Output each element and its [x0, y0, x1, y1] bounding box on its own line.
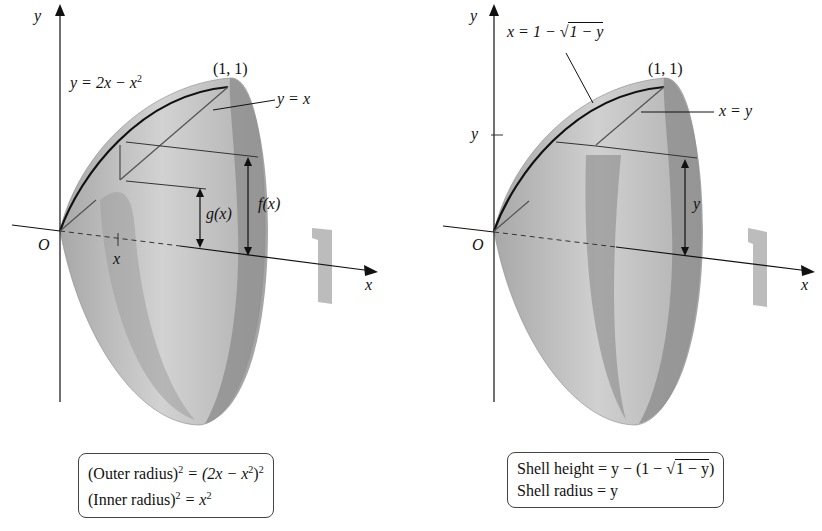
shell-formula-box: Shell height = y − (1 − √1 − y) Shell ra…	[507, 452, 724, 508]
formula-text: = (2x − x	[183, 465, 248, 482]
left-solid-drawing	[0, 0, 411, 531]
formula-text: (Outer radius)	[88, 465, 178, 482]
x-axis-label: x	[801, 276, 808, 294]
formula-text: = x	[181, 492, 207, 509]
point-label: (1, 1)	[213, 60, 248, 78]
x-axis-front	[443, 226, 494, 232]
origin-label: O	[38, 236, 50, 254]
curve-label: x = 1 − √1 − y	[507, 23, 603, 41]
shell-radius-label: y	[693, 195, 700, 213]
x-axis-front	[12, 225, 60, 231]
x-axis-label: x	[365, 276, 372, 294]
outer-radius-label: f(x)	[258, 195, 280, 213]
curve-label-text: x = 1 −	[507, 23, 560, 40]
shell-method-figure: y O y x (1, 1) x = 1 − √1 − y x = y y Sh…	[411, 0, 822, 531]
curve-label-leader	[566, 53, 593, 103]
y-axis-label: y	[34, 7, 41, 25]
formula-text: )	[709, 460, 714, 477]
curve-label-exponent: 2	[137, 73, 142, 84]
y-axis-arrowhead-icon	[489, 4, 499, 16]
radicand: 1 − y	[675, 459, 709, 477]
formula-exponent: 2	[259, 464, 264, 475]
x-axis-arrowhead-icon	[364, 265, 378, 276]
washer-method-figure: y O x x (1, 1) y = 2x − x2 y = x f(x) g(…	[0, 0, 411, 531]
radical-icon: √	[666, 460, 675, 477]
line-label: y = x	[277, 90, 310, 108]
x-axis-arrowhead-icon	[801, 265, 815, 276]
formula-exponent: 2	[206, 490, 211, 501]
shell-radius-formula: Shell radius = y	[517, 480, 714, 502]
origin-label: O	[472, 236, 484, 254]
y-axis-arrowhead-icon	[55, 4, 65, 16]
y-axis-label: y	[470, 7, 477, 25]
inner-radius-formula: (Inner radius)2 = x2	[88, 485, 264, 511]
washer-formula-box: (Outer radius)2 = (2x − x2)2 (Inner radi…	[78, 453, 274, 518]
rotation-arrow-icon	[748, 228, 767, 307]
outer-radius-formula: (Outer radius)2 = (2x − x2)2	[88, 459, 264, 485]
formula-text: (Inner radius)	[88, 492, 176, 509]
formula-text: Shell height = y − (1 −	[517, 460, 666, 477]
line-label: x = y	[719, 102, 752, 120]
curve-label: y = 2x − x2	[70, 73, 142, 92]
shell-height-formula: Shell height = y − (1 − √1 − y)	[517, 458, 714, 480]
x-tick-label: x	[113, 250, 120, 268]
curve-label-text: y = 2x − x	[70, 74, 137, 91]
point-label: (1, 1)	[648, 60, 683, 78]
radicand: 1 − y	[568, 22, 603, 40]
y-tick-label: y	[471, 125, 478, 143]
inner-radius-label: g(x)	[206, 205, 232, 223]
